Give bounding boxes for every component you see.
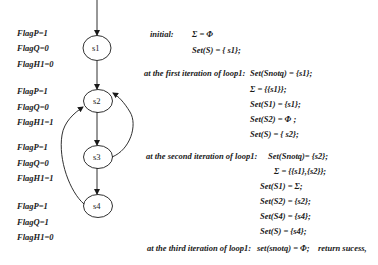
- trace-iter1-line-2: Set(S1) = {s1};: [250, 99, 301, 109]
- trace-iter2-line-1: Σ = {{s1},{s2}};: [274, 166, 326, 176]
- node-label-s4: s4: [93, 201, 101, 211]
- node-label-s2: s2: [93, 96, 101, 106]
- trace-iter2-line-0: Set(Snotq)= {s2};: [268, 151, 328, 161]
- state-graph: [0, 0, 378, 265]
- flag-s3-q: FlagQ=0: [17, 158, 49, 168]
- flag-s2-h1: FlagH1=1: [17, 117, 54, 127]
- trace-iter2-line-5: Set(S) = {s4};: [260, 226, 307, 236]
- trace-iter1-label: at the first iteration of loop1:: [144, 68, 245, 78]
- trace-iter1-line-0: Set(Snotq) = {s1};: [250, 68, 312, 78]
- flag-s2-p: FlagP=1: [17, 86, 48, 96]
- trace-iter3-line-1: return sucess,: [318, 243, 367, 253]
- trace-initial-line-0: Σ = Φ: [192, 29, 213, 39]
- flag-s1-q: FlagQ=0: [17, 43, 49, 53]
- trace-iter2-line-3: Set(S2) = {s2};: [260, 196, 311, 206]
- node-label-s3: s3: [93, 152, 101, 162]
- trace-initial-line-1: Set(S) = { s1};: [192, 45, 241, 55]
- flag-s4-q: FlagQ=1: [17, 217, 49, 227]
- flag-s1-p: FlagP=1: [17, 28, 48, 38]
- trace-iter2-line-4: Set(S4) = {s4};: [260, 211, 311, 221]
- node-label-s1: s1: [92, 43, 100, 53]
- trace-initial-label: initial:: [150, 29, 174, 39]
- trace-iter2-label: at the second iteration of loop1:: [146, 151, 257, 161]
- trace-iter3-label: at the third iteration of loop1:: [147, 243, 251, 253]
- trace-iter2-line-2: Set(S1) = Σ;: [260, 181, 303, 191]
- flag-s2-q: FlagQ=0: [17, 102, 49, 112]
- trace-iter3-line-0: set(snotq) = Φ;: [257, 243, 310, 253]
- flag-s1-h1: FlagH1=0: [17, 59, 54, 69]
- flag-s3-h1: FlagH1=1: [17, 173, 54, 183]
- trace-iter1-line-3: Set(S2) = Φ ;: [250, 114, 296, 124]
- flag-s4-h1: FlagH1=0: [17, 232, 54, 242]
- trace-iter1-line-4: Set(S) = { s2};: [250, 129, 299, 139]
- edge-s3-s2: [112, 93, 133, 157]
- flag-s3-p: FlagP=1: [17, 142, 48, 152]
- edge-s4-s2: [61, 107, 84, 204]
- trace-iter1-line-1: Σ = {{s1}};: [250, 84, 287, 94]
- flag-s4-p: FlagP=1: [17, 201, 48, 211]
